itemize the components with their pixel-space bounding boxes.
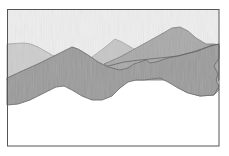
mountain-painting — [0, 0, 229, 156]
